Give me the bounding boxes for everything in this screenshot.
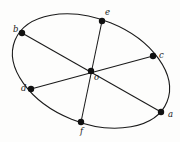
point-label-a: a [168, 109, 173, 119]
point-label-b: b [13, 24, 18, 34]
ellipse-diagram-svg: a b c d e f o [0, 0, 180, 142]
point-marker-a [158, 109, 164, 115]
point-label-f: f [79, 126, 85, 136]
point-label-c: c [159, 50, 164, 60]
point-marker-f [78, 119, 84, 125]
figure-canvas: a b c d e f o [0, 0, 180, 142]
point-marker-b [19, 30, 25, 36]
point-label-e: e [105, 7, 110, 17]
point-label-o: o [94, 72, 99, 82]
point-marker-e [99, 18, 105, 24]
point-marker-c [150, 53, 156, 59]
point-label-d: d [21, 83, 27, 93]
point-marker-d [28, 86, 34, 92]
